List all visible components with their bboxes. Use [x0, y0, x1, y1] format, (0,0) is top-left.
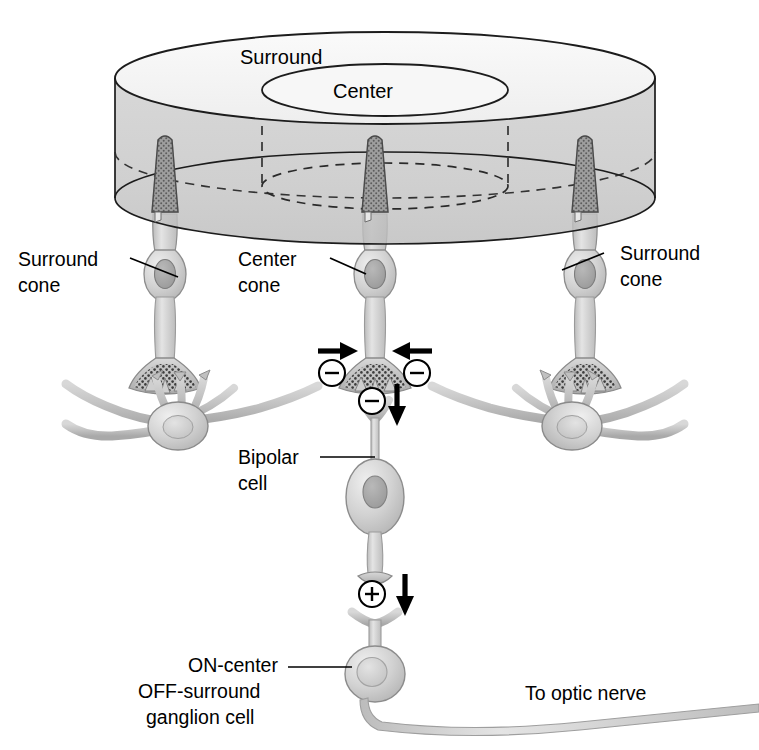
label-ganglion-cell-line2: OFF-surround [138, 680, 260, 702]
label-optic-nerve: To optic nerve [525, 682, 646, 704]
label-surround-cone-right-line2: cone [620, 268, 662, 290]
retina-receptive-field-figure: Surround Center Surround cone Center con… [0, 0, 759, 750]
bipolar-axon [367, 532, 383, 574]
label-center-field: Center [333, 80, 393, 102]
ganglion-dendritic-stalk [369, 620, 381, 648]
receptive-field-diagram: Surround Center Surround cone Center con… [0, 0, 759, 750]
ganglion-nucleus [357, 658, 387, 687]
inhibitory-synapse-left [319, 360, 345, 386]
label-ganglion-cell-line1: ON-center [188, 654, 278, 676]
label-bipolar-cell-line2: cell [238, 472, 267, 494]
excitatory-synapse-ganglion [359, 581, 385, 607]
label-center-cone-line2: cone [238, 274, 280, 296]
label-surround-field: Surround [240, 46, 322, 68]
bipolar-nucleus [363, 476, 387, 508]
label-ganglion-cell-line3: ganglion cell [146, 706, 254, 728]
label-bipolar-cell-line1: Bipolar [238, 446, 299, 468]
label-surround-cone-left-line1: Surround [18, 248, 98, 270]
label-surround-cone-right-line1: Surround [620, 242, 700, 264]
label-center-cone-line1: Center [238, 248, 297, 270]
inhibitory-synapse-right [404, 360, 430, 386]
label-surround-cone-left-line2: cone [18, 274, 60, 296]
inhibitory-synapse-bipolar [359, 388, 385, 414]
